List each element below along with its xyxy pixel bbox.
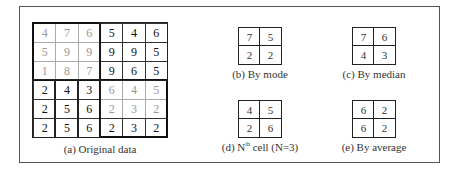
data-cell: 6 — [100, 80, 123, 100]
caption-by-mode: (b) By mode — [220, 68, 300, 80]
data-cell: 7 — [78, 61, 101, 81]
median-cell-3: 3 — [374, 46, 395, 64]
mode-grid: 7 5 2 2 — [238, 27, 282, 65]
average-grid: 6 2 6 2 — [352, 100, 396, 138]
data-cell: 5 — [55, 118, 78, 138]
nth-cell-1: 5 — [260, 101, 281, 119]
data-cell: 8 — [55, 61, 78, 81]
data-cell: 4 — [55, 80, 78, 100]
nth-cell-3: 6 — [260, 119, 281, 137]
data-cell: 9 — [122, 42, 145, 62]
caption-original-data: (a) Original data — [33, 143, 167, 155]
data-cell: 2 — [33, 99, 56, 119]
data-cell: 2 — [33, 118, 56, 138]
median-grid: 7 6 4 3 — [352, 27, 396, 65]
caption-prefix: (d) N — [222, 141, 246, 153]
median-cell-1: 6 — [374, 28, 395, 46]
data-cell: 3 — [122, 118, 145, 138]
data-cell: 5 — [145, 61, 168, 81]
data-cell: 2 — [145, 118, 168, 138]
mode-cell-2: 2 — [239, 46, 260, 64]
median-cell-2: 4 — [353, 46, 374, 64]
data-cell: 9 — [100, 42, 123, 62]
data-cell: 9 — [55, 42, 78, 62]
data-cell: 1 — [33, 61, 56, 81]
mode-cell-0: 7 — [239, 28, 260, 46]
data-cell: 3 — [122, 99, 145, 119]
original-data-grid: 476546599995187965243645256232256232 — [33, 23, 167, 137]
caption-by-average: (e) By average — [330, 141, 418, 153]
nth-cell-grid: 4 5 2 6 — [238, 100, 282, 138]
data-cell: 5 — [100, 23, 123, 43]
data-cell: 5 — [55, 99, 78, 119]
data-cell: 4 — [122, 23, 145, 43]
average-cell-0: 6 — [353, 101, 374, 119]
data-cell: 3 — [78, 80, 101, 100]
mode-cell-1: 5 — [260, 28, 281, 46]
mode-cell-3: 2 — [260, 46, 281, 64]
data-cell: 6 — [78, 99, 101, 119]
data-cell: 5 — [145, 80, 168, 100]
data-cell: 2 — [145, 99, 168, 119]
data-cell: 2 — [33, 80, 56, 100]
data-cell: 6 — [78, 118, 101, 138]
data-cell: 5 — [33, 42, 56, 62]
caption-suffix: cell (N=3) — [250, 141, 298, 153]
data-cell: 9 — [78, 42, 101, 62]
data-cell: 2 — [100, 99, 123, 119]
average-cell-1: 2 — [374, 101, 395, 119]
nth-cell-0: 4 — [239, 101, 260, 119]
data-cell: 6 — [122, 61, 145, 81]
data-cell: 4 — [122, 80, 145, 100]
average-cell-3: 2 — [374, 119, 395, 137]
data-cell: 4 — [33, 23, 56, 43]
average-cell-2: 6 — [353, 119, 374, 137]
data-cell: 6 — [78, 23, 101, 43]
caption-nth-cell: (d) Nth cell (N=3) — [215, 141, 305, 153]
grid-divider — [239, 118, 281, 119]
data-cell: 5 — [145, 42, 168, 62]
data-cell: 2 — [100, 118, 123, 138]
nth-cell-2: 2 — [239, 119, 260, 137]
data-cell: 6 — [145, 23, 168, 43]
median-cell-0: 7 — [353, 28, 374, 46]
grid-divider — [239, 45, 281, 46]
data-cell: 7 — [55, 23, 78, 43]
caption-by-median: (c) By median — [332, 68, 416, 80]
data-cell: 9 — [100, 61, 123, 81]
grid-divider — [353, 45, 395, 46]
grid-divider — [353, 118, 395, 119]
